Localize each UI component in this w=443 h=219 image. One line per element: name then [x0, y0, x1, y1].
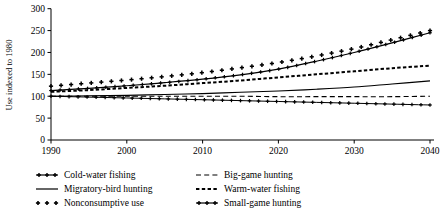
x-tick-label: 2010 [193, 146, 212, 156]
series-layer [49, 28, 432, 106]
y-axis-label: Use indexed to 1980 [4, 40, 14, 111]
x-tick-label: 2030 [345, 146, 364, 156]
x-tick-label: 2000 [117, 146, 136, 156]
legend-item-big-game-hunting[interactable]: Big-game hunting [196, 170, 293, 180]
y-tick-label: 300 [31, 4, 46, 14]
legend-label: Small-game hunting [224, 198, 302, 208]
series-line [51, 33, 430, 91]
y-axis-label-text: Use indexed to 1980 [4, 40, 14, 111]
y-tick-label: 50 [36, 114, 46, 124]
y-tick-label: 0 [40, 135, 45, 145]
legend-item-warm-water-fishing[interactable]: Warm-water fishing [196, 184, 300, 194]
series-warm-water-fishing [51, 66, 430, 92]
legend-item-cold-water-fishing[interactable]: Cold-water fishing [36, 170, 136, 180]
line-chart: Use indexed to 1980 050100150200250300 1… [0, 0, 443, 219]
legend-item-small-game-hunting[interactable]: Small-game hunting [196, 198, 302, 208]
y-tick-label: 100 [31, 92, 46, 102]
legend-item-migratory-bird-hunting[interactable]: Migratory-bird hunting [36, 184, 153, 194]
legend-label: Nonconsumptive use [64, 198, 144, 208]
x-axis-ticks: 199020002010202020302040 [42, 140, 440, 156]
chart-legend: Cold-water fishingMigratory-bird hunting… [36, 170, 302, 208]
series-line [51, 66, 430, 92]
series-line [51, 96, 430, 97]
series-nonconsumptive-use [49, 28, 432, 88]
legend-label: Cold-water fishing [64, 170, 136, 180]
x-tick-label: 2020 [269, 146, 288, 156]
y-tick-label: 150 [31, 70, 46, 80]
x-tick-label: 2040 [421, 146, 440, 156]
legend-label: Big-game hunting [224, 170, 293, 180]
legend-label: Warm-water fishing [224, 184, 300, 194]
legend-item-nonconsumptive-use[interactable]: Nonconsumptive use [36, 198, 144, 208]
legend-label: Migratory-bird hunting [64, 184, 153, 194]
series-cold-water-fishing [49, 31, 432, 92]
x-tick-label: 1990 [42, 146, 61, 156]
series-big-game-hunting [51, 96, 430, 97]
chart-container: Use indexed to 1980 050100150200250300 1… [0, 0, 443, 219]
y-tick-label: 250 [31, 26, 46, 36]
y-tick-label: 200 [31, 48, 46, 58]
y-axis-ticks: 050100150200250300 [31, 4, 51, 145]
